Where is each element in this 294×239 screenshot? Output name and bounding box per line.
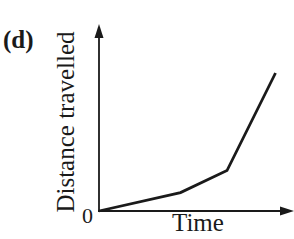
y-axis-arrow-icon [95, 24, 104, 38]
x-axis-arrow-icon [280, 207, 294, 216]
plot-area [0, 0, 294, 239]
distance-time-line [99, 73, 276, 211]
